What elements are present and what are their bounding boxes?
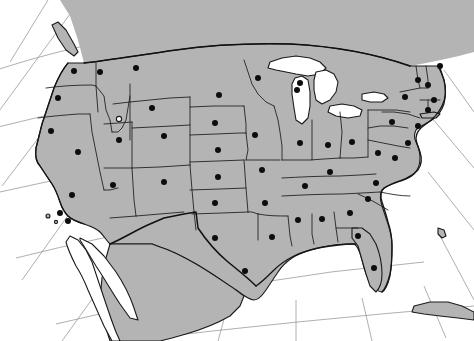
city-marker xyxy=(297,140,303,146)
city-marker xyxy=(149,105,155,111)
city-marker xyxy=(212,235,218,241)
channel-island-1 xyxy=(46,214,50,218)
city-marker xyxy=(55,95,61,101)
city-marker xyxy=(415,123,421,129)
city-marker xyxy=(259,167,265,173)
city-marker xyxy=(216,92,222,98)
city-marker xyxy=(133,65,139,71)
city-marker xyxy=(302,183,308,189)
map-canvas xyxy=(0,0,474,341)
city-marker xyxy=(431,97,437,103)
great-salt-lake xyxy=(116,116,121,121)
city-marker xyxy=(116,137,122,143)
city-marker xyxy=(425,82,431,88)
city-marker xyxy=(215,147,221,153)
channel-island-2 xyxy=(54,220,57,223)
lake-ontario xyxy=(362,92,388,102)
city-marker xyxy=(212,200,218,206)
city-marker xyxy=(110,182,116,188)
city-marker xyxy=(69,192,75,198)
city-marker xyxy=(255,75,261,81)
city-marker xyxy=(327,169,333,175)
city-marker xyxy=(347,210,353,216)
city-marker xyxy=(349,139,355,145)
city-marker xyxy=(402,94,408,100)
us-map-svg xyxy=(0,0,474,341)
city-marker xyxy=(365,196,371,202)
city-marker xyxy=(319,216,325,222)
city-marker xyxy=(161,179,167,185)
city-marker xyxy=(415,77,421,83)
city-marker xyxy=(294,87,300,93)
city-marker xyxy=(295,217,301,223)
city-marker xyxy=(371,265,377,271)
city-marker xyxy=(297,80,303,86)
city-marker xyxy=(75,149,81,155)
city-marker xyxy=(212,120,218,126)
city-marker xyxy=(161,133,167,139)
city-marker xyxy=(437,63,443,69)
city-marker xyxy=(262,200,268,206)
city-marker xyxy=(242,268,248,274)
city-marker xyxy=(375,150,381,156)
city-marker xyxy=(373,180,379,186)
city-marker xyxy=(48,128,54,134)
city-marker xyxy=(252,132,258,138)
city-marker xyxy=(355,233,361,239)
city-marker xyxy=(215,174,221,180)
city-marker xyxy=(97,69,103,75)
city-marker xyxy=(269,234,275,240)
city-marker xyxy=(392,155,398,161)
city-marker xyxy=(425,107,431,113)
city-marker xyxy=(65,218,71,224)
city-marker xyxy=(57,210,63,216)
city-marker xyxy=(405,140,411,146)
city-marker xyxy=(389,119,395,125)
city-marker xyxy=(325,142,331,148)
city-marker xyxy=(71,68,77,74)
